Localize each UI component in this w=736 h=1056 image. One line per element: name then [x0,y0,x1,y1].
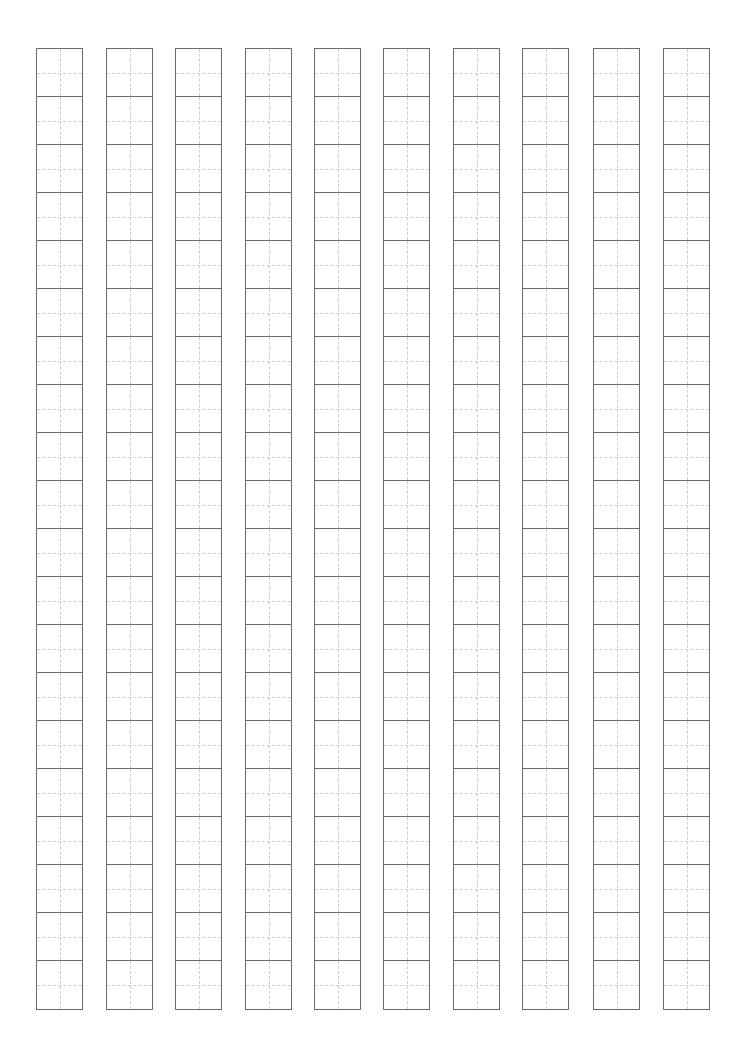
horizontal-guide-line [384,73,429,74]
grid-cell [664,529,709,577]
grid-cell [664,913,709,961]
grid-cell [246,961,291,1009]
grid-cell [315,769,360,817]
horizontal-guide-line [37,457,82,458]
horizontal-guide-line [107,457,152,458]
grid-column [383,48,430,1010]
horizontal-guide-line [664,649,709,650]
grid-cell [384,49,429,97]
horizontal-guide-line [176,889,221,890]
grid-cell [176,145,221,193]
grid-cell [523,433,568,481]
grid-cell [246,481,291,529]
grid-cell [664,49,709,97]
horizontal-guide-line [594,745,639,746]
horizontal-guide-line [315,793,360,794]
horizontal-guide-line [594,121,639,122]
horizontal-guide-line [454,745,499,746]
horizontal-guide-line [315,361,360,362]
horizontal-guide-line [107,841,152,842]
horizontal-guide-line [454,73,499,74]
grid-cell [454,673,499,721]
horizontal-guide-line [454,409,499,410]
horizontal-guide-line [523,649,568,650]
grid-cell [37,913,82,961]
grid-cell [37,625,82,673]
horizontal-guide-line [107,313,152,314]
grid-cell [37,961,82,1009]
horizontal-guide-line [454,649,499,650]
grid-cell [664,865,709,913]
horizontal-guide-line [664,361,709,362]
grid-cell [664,625,709,673]
horizontal-guide-line [594,601,639,602]
horizontal-guide-line [176,217,221,218]
horizontal-guide-line [315,937,360,938]
horizontal-guide-line [594,409,639,410]
grid-cell [315,913,360,961]
horizontal-guide-line [384,985,429,986]
grid-cell [315,961,360,1009]
horizontal-guide-line [664,889,709,890]
grid-cell [664,673,709,721]
grid-cell [107,577,152,625]
horizontal-guide-line [246,937,291,938]
grid-cell [523,49,568,97]
grid-cell [107,817,152,865]
grid-cell [315,193,360,241]
horizontal-guide-line [246,265,291,266]
horizontal-guide-line [107,121,152,122]
grid-cell [176,817,221,865]
grid-cell [454,817,499,865]
horizontal-guide-line [454,505,499,506]
horizontal-guide-line [384,361,429,362]
grid-cell [454,865,499,913]
horizontal-guide-line [384,169,429,170]
grid-cell [523,337,568,385]
horizontal-guide-line [176,553,221,554]
grid-cell [176,913,221,961]
horizontal-guide-line [107,745,152,746]
grid-cell [107,385,152,433]
horizontal-guide-line [594,457,639,458]
grid-cell [384,961,429,1009]
grid-cell [594,913,639,961]
horizontal-guide-line [315,265,360,266]
grid-cell [594,337,639,385]
grid-cell [523,865,568,913]
horizontal-guide-line [454,793,499,794]
grid-cell [176,49,221,97]
grid-cell [664,145,709,193]
grid-cell [384,97,429,145]
grid-cell [454,97,499,145]
horizontal-guide-line [176,409,221,410]
horizontal-guide-line [664,601,709,602]
grid-cell [37,289,82,337]
horizontal-guide-line [594,985,639,986]
grid-cell [176,433,221,481]
grid-cell [523,385,568,433]
horizontal-guide-line [176,793,221,794]
grid-cell [246,721,291,769]
horizontal-guide-line [384,409,429,410]
grid-cell [176,625,221,673]
horizontal-guide-line [246,169,291,170]
horizontal-guide-line [176,649,221,650]
grid-cell [594,145,639,193]
horizontal-guide-line [664,73,709,74]
grid-cell [523,721,568,769]
horizontal-guide-line [107,73,152,74]
grid-cell [107,961,152,1009]
horizontal-guide-line [37,121,82,122]
horizontal-guide-line [664,793,709,794]
grid-cell [246,289,291,337]
grid-cell [246,865,291,913]
grid-cell [384,337,429,385]
horizontal-guide-line [384,937,429,938]
horizontal-guide-line [315,697,360,698]
grid-cell [176,193,221,241]
horizontal-guide-line [664,457,709,458]
grid-cell [246,529,291,577]
grid-cell [454,145,499,193]
grid-cell [246,673,291,721]
